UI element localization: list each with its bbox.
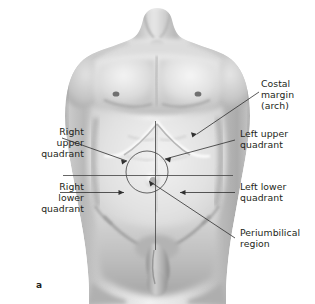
nipple-left bbox=[113, 91, 120, 96]
abdominal-quadrants-figure: Right upper quadrant Right lower quadran… bbox=[0, 0, 315, 304]
figure-letter: a bbox=[36, 280, 42, 290]
label-costal-margin: Costal margin (arch) bbox=[261, 78, 315, 112]
label-left-upper-quadrant: Left upper quadrant bbox=[240, 128, 315, 150]
torso-body bbox=[62, 8, 254, 304]
label-right-upper-quadrant: Right upper quadrant bbox=[8, 126, 84, 160]
nipple-right bbox=[195, 91, 202, 96]
label-right-lower-quadrant: Right lower quadrant bbox=[8, 181, 84, 215]
label-left-lower-quadrant: Left lower quadrant bbox=[240, 181, 315, 203]
label-periumbilical-region: Periumbilical region bbox=[240, 227, 315, 249]
